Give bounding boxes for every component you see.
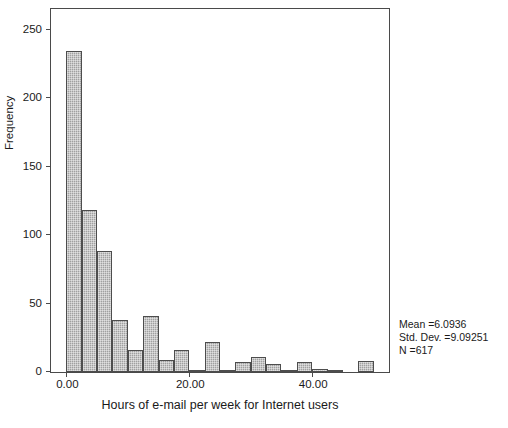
y-tick-label: 0 (36, 366, 42, 378)
stat-mean: Mean =6.0936 (399, 318, 488, 331)
x-tick-label: 20.00 (176, 379, 205, 391)
y-axis-title-text: Frequency (4, 134, 16, 150)
x-axis-title: Hours of e-mail per week for Internet us… (50, 399, 390, 412)
y-tick-label: 200 (23, 92, 42, 104)
histogram-bar (143, 316, 158, 372)
x-tick-label: 0.00 (56, 379, 78, 391)
histogram-bar (159, 360, 174, 372)
y-tick-label: 50 (29, 298, 42, 310)
bars-layer (51, 9, 389, 372)
histogram-bar (66, 51, 81, 372)
histogram-bar (251, 357, 266, 372)
histogram-bar (235, 362, 250, 372)
histogram-bar (312, 369, 327, 372)
y-tick-label: 150 (23, 161, 42, 173)
stat-n: N =617 (399, 344, 488, 357)
y-axis-title: Frequency (4, 118, 16, 134)
histogram-bar (128, 350, 143, 372)
histogram-bar (358, 361, 373, 372)
x-tick-label: 40.00 (299, 379, 328, 391)
y-tick-label: 100 (23, 229, 42, 241)
y-tick-label: 250 (23, 24, 42, 36)
plot-area: 050100150200250 0.0020.0040.00 (50, 8, 390, 373)
histogram-bar (281, 370, 296, 372)
histogram-bar (297, 362, 312, 372)
histogram-bar (174, 350, 189, 372)
histogram-figure: Frequency 050100150200250 0.0020.0040.00… (0, 0, 508, 428)
stat-stddev: Std. Dev. =9.09251 (399, 331, 488, 344)
histogram-bar (220, 370, 235, 372)
histogram-bar (82, 210, 97, 372)
x-axis-title-text: Hours of e-mail per week for Internet us… (102, 398, 339, 412)
histogram-bar (189, 370, 204, 372)
x-tick: 40.00 (312, 372, 313, 377)
histogram-bar (205, 342, 220, 372)
x-tick: 0.00 (66, 372, 67, 377)
histogram-bar (328, 370, 343, 372)
histogram-bar (97, 251, 112, 372)
histogram-bar (266, 364, 281, 372)
histogram-bar (112, 320, 127, 372)
x-tick: 20.00 (189, 372, 190, 377)
statistics-annotation: Mean =6.0936 Std. Dev. =9.09251 N =617 (399, 318, 488, 357)
